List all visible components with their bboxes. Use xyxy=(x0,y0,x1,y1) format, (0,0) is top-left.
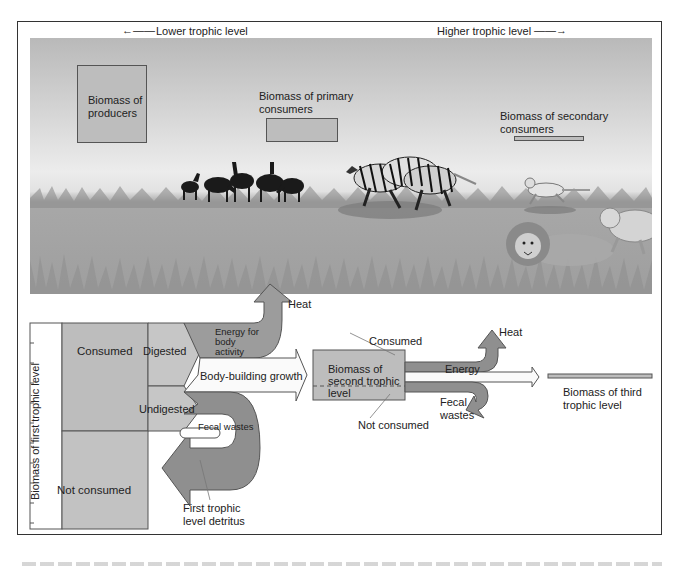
second-not-consumed-label: Not consumed xyxy=(358,419,429,431)
detritus-label: First trophic level detritus xyxy=(183,502,263,528)
undigested-label: Undigested xyxy=(139,403,195,415)
not-consumed-block xyxy=(62,431,148,529)
third-trophic-biomass-bar xyxy=(548,374,652,378)
consumed-label: Consumed xyxy=(77,345,133,357)
body-building-label: Body-building growth xyxy=(200,370,303,382)
third-trophic-label: Biomass of third trophic level xyxy=(563,386,653,412)
figure-caption-blurred xyxy=(22,562,662,566)
heat-label: Heat xyxy=(288,298,311,310)
second-heat-label: Heat xyxy=(499,326,522,338)
not-consumed-label: Not consumed xyxy=(57,484,131,496)
second-fecal-wastes-label: Fecal wastes xyxy=(440,396,480,422)
fecal-wastes-label: Fecal wastes xyxy=(198,421,253,433)
consumed-block xyxy=(62,323,148,431)
second-consumed-label: Consumed xyxy=(369,335,422,347)
energy-body-activity-label: Energy for body activity xyxy=(215,327,265,357)
second-trophic-label: Biomass of second trophic level xyxy=(328,363,410,399)
digested-label: Digested xyxy=(143,345,186,357)
second-energy-label: Energy xyxy=(445,363,480,375)
axis-label: Biomass of first trophic level xyxy=(29,363,41,500)
